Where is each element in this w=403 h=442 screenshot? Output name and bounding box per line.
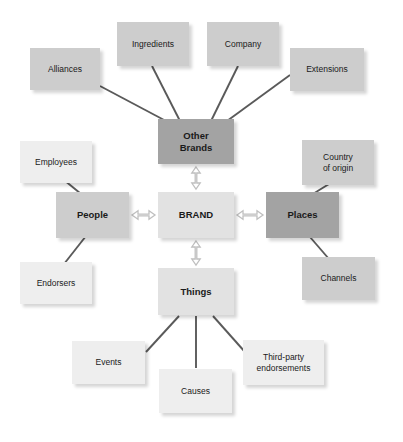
node-employees: Employees [20, 141, 92, 183]
node-label-people: People [77, 209, 108, 221]
node-label-endorsers: Endorsers [37, 278, 76, 288]
node-label-company: Company [225, 39, 261, 49]
node-label-employees: Employees [35, 157, 77, 167]
node-label-extensions: Extensions [306, 64, 348, 74]
node-places: Places [266, 192, 339, 238]
node-label-brand: BRAND [179, 209, 213, 221]
connector-extensions-to-other-brands [227, 75, 290, 121]
node-label-events: Events [96, 357, 122, 367]
node-company: Company [207, 22, 279, 66]
node-causes: Causes [159, 369, 232, 413]
node-label-ingredients: Ingredients [132, 39, 174, 49]
node-label-causes: Causes [181, 386, 210, 396]
node-people: People [56, 192, 129, 238]
connector-ingredients-to-other-brands [152, 66, 180, 121]
arrow-brand-other-brands [192, 167, 200, 189]
node-label-other-brands: Other Brands [180, 130, 213, 153]
node-label-places: Places [287, 209, 317, 221]
node-brand: BRAND [158, 192, 234, 238]
node-events: Events [72, 341, 145, 384]
node-things: Things [158, 268, 234, 315]
node-label-alliances: Alliances [48, 64, 82, 74]
node-endorsers: Endorsers [20, 262, 92, 304]
connector-endorsers-to-people [64, 236, 86, 264]
node-channels: Channels [302, 257, 375, 300]
node-country-of-origin: Country of origin [302, 140, 374, 185]
node-ingredients: Ingredients [117, 22, 189, 66]
node-label-third-party-endorsements: Third-party endorsements [257, 352, 311, 373]
node-label-channels: Channels [321, 273, 357, 283]
node-label-things: Things [180, 286, 211, 298]
connector-events-to-things [146, 316, 179, 352]
node-alliances: Alliances [30, 48, 100, 90]
arrow-brand-things [192, 241, 200, 265]
node-label-country-of-origin: Country of origin [323, 152, 353, 173]
node-extensions: Extensions [290, 48, 364, 91]
node-other-brands: Other Brands [158, 119, 234, 164]
connector-company-to-other-brands [211, 66, 238, 121]
connector-channels-to-places [310, 237, 329, 259]
connector-third-party-endorsements-to-things [213, 316, 245, 352]
node-third-party-endorsements: Third-party endorsements [243, 340, 324, 385]
arrow-brand-places [237, 211, 263, 219]
arrow-brand-people [132, 211, 155, 219]
connector-alliances-to-other-brands [100, 86, 166, 121]
brand-association-diagram: BRANDOther BrandsPeoplePlacesThingsAllia… [0, 0, 403, 442]
